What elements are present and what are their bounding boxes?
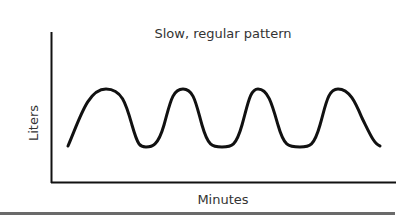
chart-title: Slow, regular pattern [154, 26, 291, 41]
y-axis-label: Liters [26, 105, 41, 141]
chart: Slow, regular pattern Liters Minutes [0, 0, 406, 216]
bottom-border [0, 212, 395, 215]
x-axis-label: Minutes [197, 192, 248, 207]
data-line [68, 89, 380, 147]
